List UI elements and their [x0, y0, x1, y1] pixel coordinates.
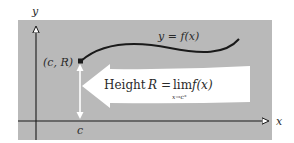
annotation-lim: lim — [173, 78, 193, 92]
annotation-func: f(x) — [191, 78, 213, 92]
annotation-equals: = — [161, 78, 171, 92]
endpoint-marker — [78, 59, 83, 64]
annotation-var: R — [147, 78, 157, 92]
x-tick-label-c: c — [77, 124, 83, 137]
x-axis-label: x — [276, 115, 283, 128]
annotation-lim-subscript: x→c⁺ — [172, 93, 187, 100]
y-axis-label: y — [31, 5, 39, 18]
curve-label: y = f(x) — [157, 30, 199, 43]
point-label: (c, R) — [43, 56, 73, 69]
annotation-prefix: Height — [104, 78, 146, 92]
limit-diagram: y x y = f(x) (c, R) c Height R = lim x→c… — [0, 0, 294, 143]
